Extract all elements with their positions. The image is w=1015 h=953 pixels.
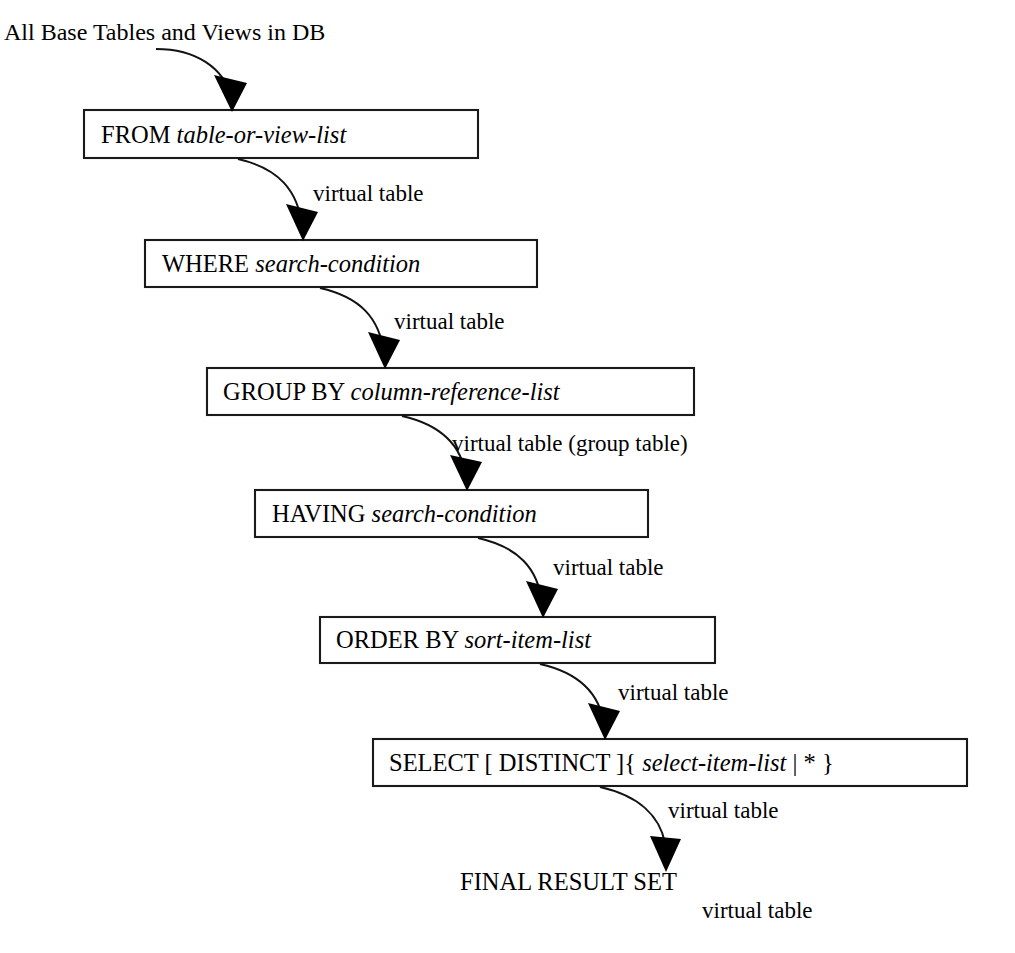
final-result-label: FINAL RESULT SET <box>460 868 677 895</box>
stage-label-from: FROM table-or-view-list <box>101 121 347 148</box>
edge-select-to-final: virtual table <box>600 787 779 872</box>
source-label-text: All Base Tables and Views in DB <box>4 19 325 45</box>
stage-order-by[interactable]: ORDER BY sort-item-list <box>320 617 715 663</box>
stage-keyword: GROUP BY <box>223 378 351 405</box>
edge-order-to-select: virtual table <box>540 664 729 740</box>
stage-where[interactable]: WHERE search-condition <box>145 240 537 287</box>
edge-where-to-group: virtual table <box>320 288 505 369</box>
stage-operand: select-item-list <box>642 749 787 776</box>
stage-group-by[interactable]: GROUP BY column-reference-list <box>207 368 694 415</box>
edge-from-to-where: virtual table <box>238 159 424 241</box>
stage-keyword: HAVING <box>272 500 372 527</box>
arrow-head-icon <box>286 204 318 241</box>
arrow-curve-icon <box>600 787 665 843</box>
stage-keyword: ORDER BY <box>336 626 464 653</box>
edge-label-where-to-group: virtual table <box>394 309 505 334</box>
arrow-head-icon <box>526 581 558 618</box>
edge-label-select-to-final: virtual table <box>668 798 779 823</box>
source-label: All Base Tables and Views in DB <box>4 19 325 45</box>
edge-label-from-to-where: virtual table <box>313 181 424 206</box>
stage-operand: search-condition <box>372 500 537 527</box>
stage-keyword: SELECT [ DISTINCT ]{ <box>389 749 642 776</box>
edge-label-group-to-having: virtual table (group table) <box>452 431 688 456</box>
stage-select[interactable]: SELECT [ DISTINCT ]{ select-item-list | … <box>373 739 967 786</box>
arrow-curve-icon <box>156 49 231 97</box>
arrow-head-icon <box>214 75 247 112</box>
stage-operand: sort-item-list <box>464 626 592 653</box>
stage-label-having: HAVING search-condition <box>272 500 537 527</box>
stage-having[interactable]: HAVING search-condition <box>255 490 648 537</box>
stage-keyword: WHERE <box>162 250 255 277</box>
stage-operand: column-reference-list <box>351 378 561 405</box>
stage-from[interactable]: FROM table-or-view-list <box>84 110 478 158</box>
edge-group-to-having: virtual table (group table) <box>402 416 688 491</box>
arrow-head-icon <box>650 836 681 872</box>
final-result-group: FINAL RESULT SET virtual table <box>460 868 813 923</box>
edge-source-to-from <box>156 49 247 112</box>
edge-having-to-order: virtual table <box>478 538 664 618</box>
edge-label-order-to-select: virtual table <box>618 680 729 705</box>
arrow-head-icon <box>368 332 400 369</box>
stage-label-select: SELECT [ DISTINCT ]{ select-item-list | … <box>389 749 834 776</box>
stage-operand: search-condition <box>255 250 420 277</box>
arrow-head-icon <box>588 703 620 740</box>
edge-label-having-to-order: virtual table <box>553 555 664 580</box>
stage-suffix: | * } <box>786 749 833 776</box>
final-virtual-table-label: virtual table <box>702 898 813 923</box>
sql-processing-order-diagram: All Base Tables and Views in DB FROM tab… <box>0 0 1015 953</box>
stage-label-order-by: ORDER BY sort-item-list <box>336 626 592 653</box>
stage-keyword: FROM <box>101 121 177 148</box>
stage-label-where: WHERE search-condition <box>162 250 420 277</box>
arrow-head-icon <box>450 455 482 491</box>
stage-label-group-by: GROUP BY column-reference-list <box>223 378 561 405</box>
flow-diagram-canvas: All Base Tables and Views in DB FROM tab… <box>0 0 1015 953</box>
stage-operand: table-or-view-list <box>177 121 348 148</box>
